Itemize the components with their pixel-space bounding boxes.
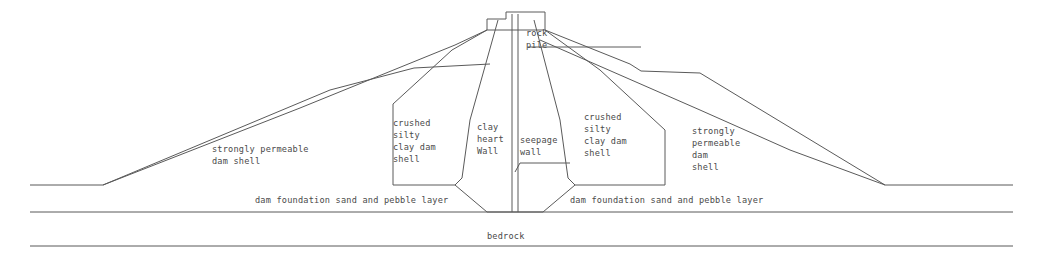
label-bedrock: bedrock xyxy=(487,231,525,241)
label-crushed-right: crushed silty clay dam shell xyxy=(584,112,665,158)
dam-cross-section-figure: rock pile strongly permeable dam shell c… xyxy=(0,0,1045,265)
label-foundation-right: dam foundation sand and pebble layer xyxy=(570,195,763,205)
seepage-wall xyxy=(512,14,518,212)
label-foundation-left: dam foundation sand and pebble layer xyxy=(255,195,448,205)
label-shell-right: strongly permeable dam shell xyxy=(692,126,778,172)
right-crushed-zone-boundary xyxy=(545,30,665,185)
dam-diagram-canvas: rock pile strongly permeable dam shell c… xyxy=(0,0,1045,265)
label-crushed-left: crushed silty clay dam shell xyxy=(393,118,474,164)
core-left-face xyxy=(455,20,498,212)
label-shell-left: strongly permeable dam shell xyxy=(212,144,346,166)
